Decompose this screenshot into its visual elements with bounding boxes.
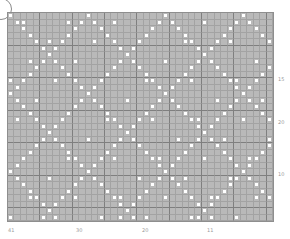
- chart-cell: [267, 215, 273, 222]
- bottom-label-0: 41: [8, 228, 14, 233]
- stitch-chart-grid: [7, 12, 274, 222]
- bottom-label-2: 20: [142, 228, 148, 233]
- right-label-1: 20: [278, 120, 284, 125]
- right-label-0: 15: [278, 77, 284, 82]
- bottom-label-1: 30: [76, 228, 82, 233]
- right-label-2: 10: [278, 172, 284, 177]
- bottom-label-3: 11: [207, 228, 213, 233]
